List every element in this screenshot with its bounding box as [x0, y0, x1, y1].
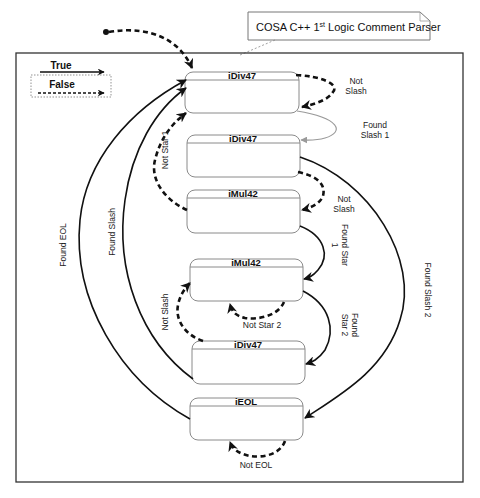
svg-text:Slash: Slash [345, 86, 367, 96]
svg-text:Slash 1: Slash 1 [361, 130, 390, 140]
svg-text:Not Star 1: Not Star 1 [160, 131, 170, 170]
state-s3[interactable]: iMul42 [187, 188, 300, 233]
state-s6[interactable]: iEOL [190, 396, 303, 440]
svg-text:Found Slash 2: Found Slash 2 [423, 263, 433, 318]
start-dot [103, 29, 109, 35]
svg-text:1: 1 [330, 243, 340, 248]
state-label: iMul42 [228, 188, 258, 199]
svg-text:Found Slash: Found Slash [107, 208, 117, 256]
svg-text:Found: Found [350, 313, 360, 337]
transition-not-star-2: Not Star 2 [230, 302, 284, 330]
state-label: iDiv47 [228, 70, 256, 81]
state-s2[interactable]: iDiv47 [187, 133, 300, 177]
title-callout: COSA C++ 1st Logic Comment Parser [240, 12, 441, 55]
start-transition [103, 29, 192, 68]
state-label: iDiv47 [229, 133, 257, 144]
svg-text:Not Slash: Not Slash [160, 293, 170, 330]
transition-found-star-1: Found Star 1 [300, 224, 350, 279]
legend-false-label: False [49, 79, 75, 90]
state-s4[interactable]: iMul42 [190, 257, 303, 301]
diagram-title: COSA C++ 1st Logic Comment Parser [256, 21, 441, 33]
state-label: iMul42 [231, 257, 261, 268]
legend-true-label: True [50, 60, 72, 71]
svg-text:Star 2: Star 2 [340, 314, 350, 337]
state-diagram: COSA C++ 1st Logic Comment Parser True F… [0, 0, 480, 498]
state-s1[interactable]: iDiv47 [185, 70, 299, 113]
legend: True False [31, 60, 111, 97]
transition-found-star-2: Found Star 2 [303, 291, 360, 364]
svg-text:Not: Not [337, 194, 351, 204]
transition-found-slash-2: Found Slash 2 [300, 157, 433, 418]
transition-not-eol: Not EOL [230, 441, 285, 470]
svg-text:Found: Found [363, 120, 387, 130]
svg-text:Found EOL: Found EOL [58, 223, 68, 267]
svg-text:Not Star 2: Not Star 2 [243, 320, 282, 330]
state-label: iDiv47 [234, 339, 262, 350]
svg-text:Not: Not [349, 76, 363, 86]
state-label: iEOL [235, 396, 257, 407]
state-s5[interactable]: iDiv47 [192, 339, 305, 384]
svg-text:Slash: Slash [333, 204, 355, 214]
transition-not-slash-1: Not Slash [296, 75, 367, 107]
transition-found-slash-1: Found Slash 1 [297, 111, 389, 140]
transition-not-slash-2: Not Slash [298, 172, 355, 214]
transition-not-star-1: Not Star 1 [154, 113, 187, 210]
svg-text:Found Star: Found Star [340, 224, 350, 266]
svg-text:Not EOL: Not EOL [240, 460, 273, 470]
